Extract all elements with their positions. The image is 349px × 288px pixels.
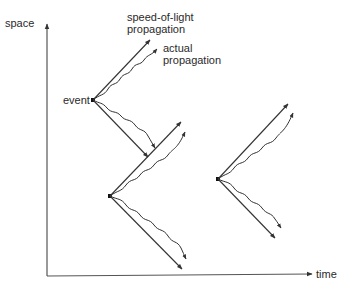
event-label: event — [63, 94, 90, 106]
event-3-actual-up — [218, 113, 293, 179]
event-3-actual-down — [218, 179, 281, 228]
event-3-light-up — [218, 104, 288, 179]
time-axis — [47, 274, 312, 276]
event-2-light-down — [110, 196, 182, 269]
event-1-actual-up — [93, 49, 157, 100]
time-axis-label: time — [316, 268, 337, 280]
spacetime-diagram: space time speed-of-light propagation ac… — [0, 0, 349, 288]
event-1-light-up — [93, 40, 150, 100]
event-2-actual-down — [110, 196, 186, 259]
event-1 — [91, 40, 157, 157]
event-3 — [216, 104, 293, 238]
speed-of-light-label-2: propagation — [127, 23, 185, 35]
event-1-actual-down — [93, 100, 155, 148]
speed-of-light-label: speed-of-light — [127, 11, 194, 23]
event-2-actual-up — [110, 132, 185, 196]
actual-propagation-label: actual — [163, 42, 192, 54]
event-3-light-down — [218, 179, 275, 238]
event-1-light-down — [93, 100, 148, 157]
actual-propagation-label-2: propagation — [163, 54, 221, 66]
event-2 — [108, 122, 186, 269]
space-axis-label: space — [5, 17, 34, 29]
